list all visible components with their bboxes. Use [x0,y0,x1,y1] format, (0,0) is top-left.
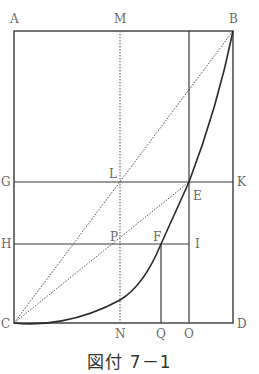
label-F: F [153,231,161,243]
geometry-diagram [0,0,259,374]
diagonal-CB-dotted [14,31,233,323]
label-C: C [1,318,10,330]
label-Q: Q [156,328,166,340]
label-H: H [1,238,11,250]
label-D: D [237,318,247,330]
label-E: E [193,190,202,202]
label-I: I [195,238,200,250]
label-O: O [184,328,194,340]
figure-caption: 図付 7－1 [0,348,259,373]
diagonal-CE-dotted [14,182,189,323]
label-L: L [109,168,117,180]
label-G: G [1,176,11,188]
label-M: M [114,13,126,25]
label-B: B [229,13,238,25]
label-N: N [115,328,126,340]
label-A: A [10,13,19,25]
label-K: K [237,176,246,188]
label-P: P [110,231,118,243]
